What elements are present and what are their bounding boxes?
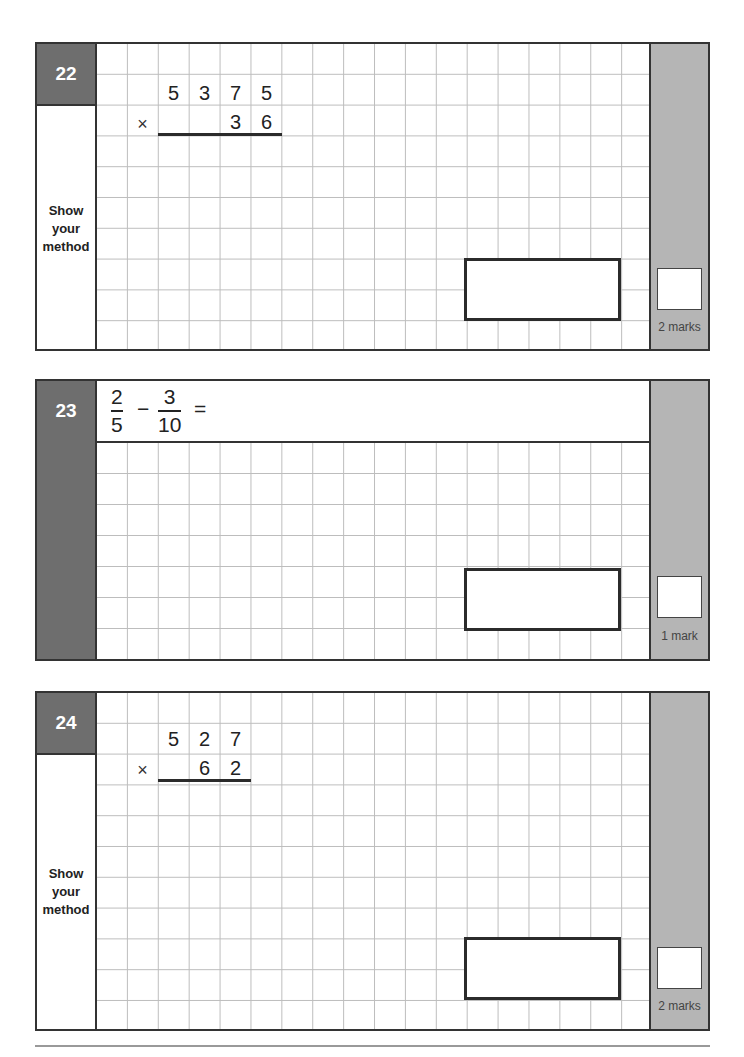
marks-box xyxy=(657,576,702,618)
question-number-badge: 24 xyxy=(37,693,95,753)
show-your-method-label: Show your method xyxy=(37,865,95,919)
calculation-underline xyxy=(158,779,251,782)
digit: 5 xyxy=(251,82,282,105)
answer-box[interactable] xyxy=(464,937,621,1000)
question-22: 22 Show your method 5 3 7 5 × 3 6 2 mark… xyxy=(35,42,710,351)
digit: 5 xyxy=(158,82,189,105)
marks-column: 2 marks xyxy=(649,44,708,349)
marks-label: 2 marks xyxy=(651,999,708,1013)
digit: 6 xyxy=(251,111,282,134)
question-number-column: 24 Show your method xyxy=(37,693,97,1029)
marks-label: 2 marks xyxy=(651,320,708,334)
digit: 6 xyxy=(189,757,220,780)
marks-column: 1 mark xyxy=(649,381,708,659)
calculation-underline xyxy=(158,133,282,136)
question-24: 24 Show your method 5 2 7 × 6 2 2 marks xyxy=(35,691,710,1031)
question-number-column: 23 xyxy=(37,381,97,659)
show-your-method-label: Show your method xyxy=(37,202,95,256)
digit: 5 xyxy=(158,728,189,751)
digit: 7 xyxy=(220,728,251,751)
question-number-badge: 22 xyxy=(37,44,95,104)
multiply-sign: × xyxy=(127,760,158,781)
question-number-badge: 23 xyxy=(37,381,95,441)
footer-divider xyxy=(35,1045,710,1047)
question-prompt: 2 5 − 3 10 = xyxy=(97,381,651,443)
multiply-sign: × xyxy=(127,114,158,135)
marks-box xyxy=(657,947,702,989)
marks-column: 2 marks xyxy=(649,693,708,1029)
marks-label: 1 mark xyxy=(651,629,708,643)
digit: 2 xyxy=(189,728,220,751)
fraction: 2 5 xyxy=(111,385,123,437)
digit: 3 xyxy=(220,111,251,134)
minus-sign: − xyxy=(137,397,149,421)
answer-box[interactable] xyxy=(464,258,621,321)
question-number-column: 22 Show your method xyxy=(37,44,97,349)
digit: 2 xyxy=(220,757,251,780)
question-23: 23 2 5 − 3 10 = 1 mark xyxy=(35,379,710,661)
marks-box xyxy=(657,268,702,310)
digit: 3 xyxy=(189,82,220,105)
equals-sign: = xyxy=(194,397,206,421)
answer-box[interactable] xyxy=(464,568,621,631)
fraction: 3 10 xyxy=(158,385,181,437)
digit: 7 xyxy=(220,82,251,105)
